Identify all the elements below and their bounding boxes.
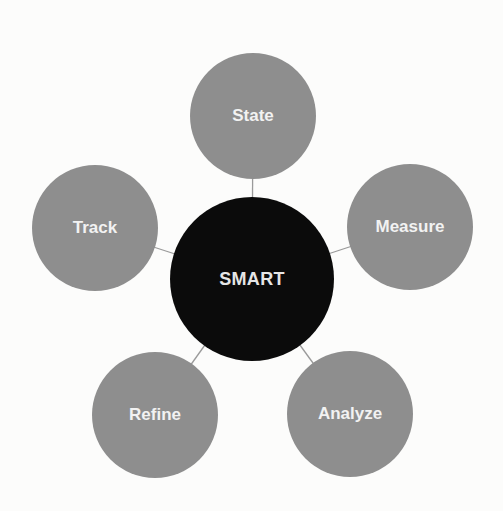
node-label: State (232, 106, 274, 126)
node-analyze: Analyze (287, 351, 413, 477)
smart-diagram: State Measure Analyze Refine Track SMART (0, 0, 503, 511)
node-label: Analyze (318, 404, 382, 424)
node-refine: Refine (92, 352, 218, 478)
node-measure: Measure (347, 164, 473, 290)
node-label: Refine (129, 405, 181, 425)
node-state: State (190, 53, 316, 179)
node-center-smart: SMART (170, 197, 334, 361)
node-track: Track (32, 165, 158, 291)
node-label: Track (73, 218, 117, 238)
center-label: SMART (219, 269, 285, 290)
node-label: Measure (376, 217, 445, 237)
